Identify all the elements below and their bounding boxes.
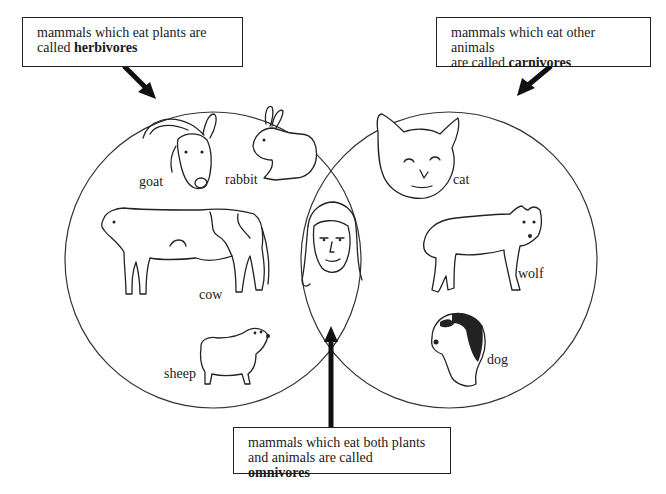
cat-icon [377, 114, 459, 198]
wolf-label: wolf [518, 266, 544, 281]
girl-face-icon [302, 202, 362, 286]
omnivores-callout: mammals which eat both plants and animal… [233, 427, 451, 474]
carnivores-callout-line1: mammals which eat other animals [451, 25, 636, 55]
carnivores-callout-line2: are called carnivores [451, 55, 636, 70]
rabbit-icon [253, 106, 316, 180]
herbivores-callout-line2: called herbivores [37, 40, 228, 55]
venn-diagram [0, 0, 666, 494]
sheep-label: sheep [164, 366, 196, 381]
sheep-icon [201, 328, 270, 384]
rabbit-label: rabbit [225, 172, 258, 187]
omnivores-callout-line2: and animals are called omnivores [248, 450, 436, 480]
cow-icon [102, 208, 269, 294]
herbivores-term: herbivores [74, 40, 138, 55]
carnivores-callout-prefix: are called [451, 55, 509, 70]
carnivores-callout: mammals which eat other animals are call… [436, 17, 651, 67]
herbivores-callout-prefix: called [37, 40, 74, 55]
arrow-to-carnivores [517, 66, 551, 96]
omnivores-callout-prefix: and animals are called [248, 450, 373, 465]
arrow-to-herbivores [124, 66, 156, 99]
omnivores-term: omnivores [248, 465, 310, 480]
herbivores-callout-line1: mammals which eat plants are [37, 25, 228, 40]
dog-label: dog [487, 352, 508, 367]
cat-label: cat [453, 172, 469, 187]
dog-icon [432, 314, 485, 387]
omnivores-callout-line1: mammals which eat both plants [248, 435, 436, 450]
herbivores-callout: mammals which eat plants are called herb… [22, 17, 243, 67]
carnivores-term: carnivores [509, 55, 572, 70]
goat-label: goat [139, 174, 163, 189]
cow-label: cow [199, 287, 222, 302]
arrow-to-omnivores [324, 326, 338, 427]
